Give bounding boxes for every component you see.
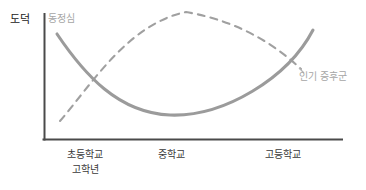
x-axis-tick-middle-line1: 중학교: [158, 149, 185, 160]
x-axis-tick-elementary-line2: 고학년: [40, 163, 130, 178]
x-axis-tick-elementary: 초등학교 고학년: [40, 148, 130, 177]
series-label-popularity: 인기 증후군: [299, 71, 347, 84]
x-axis-tick-elementary-line1: 초등학교: [67, 149, 103, 160]
series-line-morality: [57, 30, 313, 115]
x-axis-tick-middle: 중학교: [131, 148, 211, 163]
chart-figure: 도덕 동정심 인기 증후군 초등학교 고학년 중학교 고등학교: [0, 0, 366, 190]
series-label-sympathy: 동정심: [48, 13, 75, 26]
series-line-popularity: [60, 12, 301, 121]
x-axis-tick-high-line1: 고등학교: [265, 149, 301, 160]
x-axis-tick-high: 고등학교: [238, 148, 328, 163]
y-axis-title: 도덕: [10, 13, 30, 27]
